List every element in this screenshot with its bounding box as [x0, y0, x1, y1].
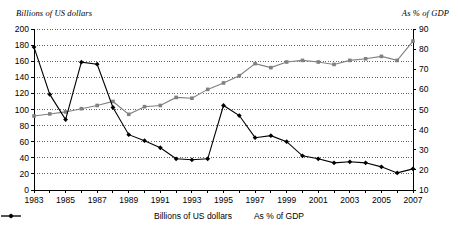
x-tick-label: 1993 — [182, 195, 201, 205]
left-tick-label: 200 — [0, 24, 29, 34]
left-tick-label: 180 — [0, 40, 29, 50]
x-tick-label: 2007 — [404, 195, 423, 205]
left-tick-label: 120 — [0, 88, 29, 98]
series-pct-gdp — [32, 45, 416, 176]
x-tick-label: 1987 — [88, 195, 107, 205]
legend-label: As % of GDP — [254, 211, 304, 221]
x-tick-label: 1995 — [214, 195, 233, 205]
x-tick-label: 1989 — [119, 195, 138, 205]
right-tick-label: 30 — [419, 145, 428, 155]
left-tick-label: 60 — [0, 137, 29, 147]
right-tick-label: 40 — [419, 125, 428, 135]
x-tick-label: 2003 — [340, 195, 359, 205]
x-tick-label: 1983 — [25, 195, 44, 205]
x-tick-label: 1991 — [151, 195, 170, 205]
legend-label: Billions of US dollars — [154, 211, 232, 221]
x-tick-label: 2001 — [309, 195, 328, 205]
left-tick-label: 40 — [0, 153, 29, 163]
right-tick-label: 20 — [419, 165, 428, 175]
x-tick-label: 1985 — [56, 195, 75, 205]
left-tick-label: 100 — [0, 105, 29, 115]
x-tick-label: 1997 — [246, 195, 265, 205]
legend-item[interactable]: Billions of US dollars — [154, 211, 232, 221]
x-tick-label: 1999 — [277, 195, 296, 205]
right-tick-label: 10 — [419, 185, 428, 195]
left-tick-label: 20 — [0, 169, 29, 179]
left-tick-label: 160 — [0, 56, 29, 66]
chart-legend: Billions of US dollarsAs % of GDP — [0, 211, 458, 221]
x-tick-label: 2005 — [372, 195, 391, 205]
right-tick-label: 80 — [419, 44, 428, 54]
left-tick-label: 0 — [0, 185, 29, 195]
right-tick-label: 70 — [419, 64, 428, 74]
right-tick-label: 60 — [419, 84, 428, 94]
left-tick-label: 80 — [0, 121, 29, 131]
right-tick-label: 90 — [419, 24, 428, 34]
right-tick-label: 50 — [419, 105, 428, 115]
chart-container: Billions of US dollars As % of GDP 02040… — [0, 0, 458, 236]
legend-diamond-marker-icon — [0, 211, 22, 221]
legend-item[interactable]: As % of GDP — [254, 211, 304, 221]
left-tick-label: 140 — [0, 72, 29, 82]
